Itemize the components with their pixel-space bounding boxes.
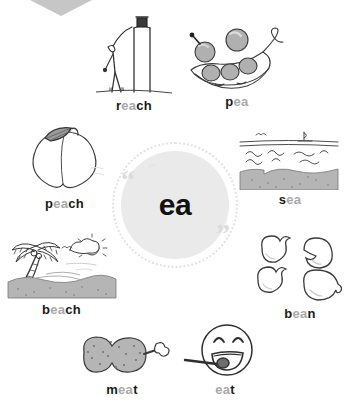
- word-suffix: ch: [136, 98, 152, 113]
- word-sound: ea: [121, 98, 136, 113]
- word-prefix: p: [225, 94, 233, 109]
- center-sound-label: ea: [112, 142, 238, 268]
- word-prefix: m: [106, 382, 118, 397]
- beach-palm-tree-icon: [6, 232, 118, 300]
- word-sound: ea: [286, 192, 301, 207]
- word-cell-pea[interactable]: pea: [182, 22, 292, 109]
- center-sound-graphic: ⌐ “ ” ea: [112, 142, 238, 268]
- word-sound: ea: [292, 306, 307, 321]
- pea-pod-icon: [185, 22, 289, 92]
- peach-fruit-icon: [21, 122, 109, 194]
- sea-waves-icon: [238, 128, 342, 190]
- svg-text:N: N: [121, 86, 124, 92]
- word-label-peach: peach: [12, 196, 117, 211]
- word-sound: ea: [215, 382, 230, 397]
- word-prefix: p: [45, 196, 53, 211]
- stick-figure-reaching-icon: HN: [94, 14, 174, 96]
- word-sound: ea: [118, 382, 133, 397]
- word-cell-meat[interactable]: meat: [72, 332, 172, 397]
- word-cell-beach[interactable]: beach: [4, 232, 119, 317]
- word-cell-sea[interactable]: sea: [236, 128, 344, 207]
- word-sound: ea: [50, 302, 65, 317]
- word-suffix: n: [308, 306, 316, 321]
- chevron-up-icon: [30, 0, 92, 16]
- word-label-bean: bean: [252, 306, 348, 321]
- word-label-sea: sea: [236, 192, 344, 207]
- word-prefix: b: [42, 302, 50, 317]
- word-sound: ea: [53, 196, 68, 211]
- word-suffix: t: [230, 382, 235, 397]
- meat-ham-icon: [74, 332, 170, 380]
- word-cell-reach[interactable]: HN reach: [86, 14, 182, 113]
- phonics-poster: HN reach: [0, 0, 349, 402]
- word-suffix: ch: [68, 196, 84, 211]
- word-cell-bean[interactable]: bean: [252, 232, 348, 321]
- word-cell-peach[interactable]: peach: [12, 122, 117, 211]
- word-sound: ea: [234, 94, 249, 109]
- beans-icon: [254, 232, 346, 304]
- smiley-eating-icon: [181, 322, 269, 380]
- word-label-beach: beach: [4, 302, 119, 317]
- word-suffix: ch: [65, 302, 81, 317]
- word-label-pea: pea: [182, 94, 292, 109]
- word-suffix: t: [133, 382, 138, 397]
- word-label-eat: eat: [178, 382, 272, 397]
- word-label-meat: meat: [72, 382, 172, 397]
- svg-text:H: H: [109, 86, 112, 92]
- word-cell-eat[interactable]: eat: [178, 322, 272, 397]
- word-label-reach: reach: [86, 98, 182, 113]
